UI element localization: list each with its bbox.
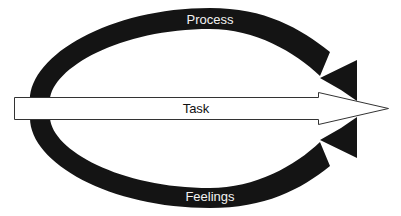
task-arrow: Task (15, 93, 389, 125)
process-arc-arrow: Process (30, 8, 357, 101)
process-arc-body (30, 8, 330, 100)
feelings-label: Feelings (185, 189, 235, 204)
feelings-arc-arrow: Feelings (30, 117, 357, 208)
task-label: Task (183, 101, 210, 116)
feelings-arc-body (30, 118, 330, 208)
task-process-feelings-diagram: Process Feelings Task (0, 0, 401, 216)
process-label: Process (187, 12, 234, 27)
